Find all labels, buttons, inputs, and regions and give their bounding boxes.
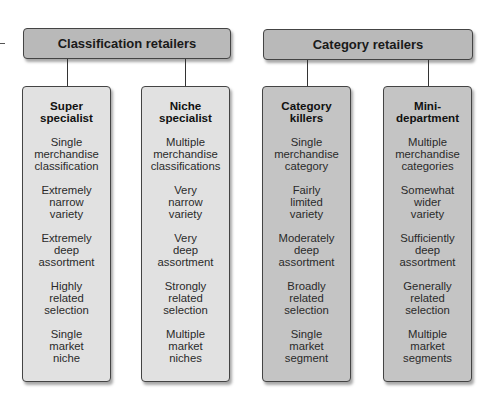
- header-classification-retailers: Classification retailers: [23, 28, 231, 59]
- column-item: Sufficiently deep assortment: [384, 232, 471, 268]
- edge-dash: [0, 43, 5, 44]
- connector-line: [428, 60, 429, 86]
- column-item: Multiple merchandise classifications: [142, 136, 229, 172]
- header-label: Classification retailers: [58, 36, 197, 51]
- column-item: Single merchandise category: [263, 136, 350, 172]
- column-item: Single market segment: [263, 328, 350, 364]
- column-item: Multiple market segments: [384, 328, 471, 364]
- column-item: Multiple merchandise categories: [384, 136, 471, 172]
- column-title: Niche specialist: [142, 100, 229, 124]
- column-item: Very narrow variety: [142, 184, 229, 220]
- column-item: Highly related selection: [23, 280, 110, 316]
- connector-line: [185, 59, 186, 86]
- column-niche-specialist: Niche specialist Multiple merchandise cl…: [141, 86, 230, 382]
- column-item: Fairly limited variety: [263, 184, 350, 220]
- column-super-specialist: Super specialist Single merchandise clas…: [22, 86, 111, 382]
- header-category-retailers: Category retailers: [263, 29, 473, 60]
- column-item: Very deep assortment: [142, 232, 229, 268]
- column-item: Single market niche: [23, 328, 110, 364]
- column-item: Extremely deep assortment: [23, 232, 110, 268]
- column-mini-department: Mini- department Multiple merchandise ca…: [383, 86, 472, 382]
- column-item: Strongly related selection: [142, 280, 229, 316]
- column-item: Single merchandise classification: [23, 136, 110, 172]
- column-item: Somewhat wider variety: [384, 184, 471, 220]
- column-category-killers: Category killers Single merchandise cate…: [262, 86, 351, 382]
- column-item: Generally related selection: [384, 280, 471, 316]
- connector-line: [67, 59, 68, 86]
- column-item: Moderately deep assortment: [263, 232, 350, 268]
- column-item: Multiple market niches: [142, 328, 229, 364]
- column-title: Category killers: [263, 100, 350, 124]
- connector-line: [307, 60, 308, 86]
- header-label: Category retailers: [313, 37, 424, 52]
- column-title: Mini- department: [384, 100, 471, 124]
- column-title: Super specialist: [23, 100, 110, 124]
- column-item: Broadly related selection: [263, 280, 350, 316]
- column-item: Extremely narrow variety: [23, 184, 110, 220]
